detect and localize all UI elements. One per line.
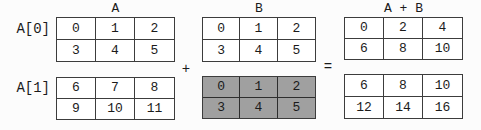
matrix-cell: 8 <box>384 75 423 97</box>
column-header-a: A <box>56 1 175 16</box>
matrix-cell: 8 <box>384 39 423 60</box>
matrix-cell: 3 <box>203 40 240 62</box>
matrix-cell: 0 <box>203 77 240 98</box>
column-header-b: B <box>202 1 316 16</box>
matrix-a1: 67891011 <box>56 77 175 120</box>
matrix-cell: 1 <box>96 18 135 40</box>
column-header-a-plus-b: A + B <box>344 1 463 16</box>
matrix-cell: 1 <box>240 77 277 98</box>
matrix-cell: 6 <box>345 39 384 60</box>
matrix-cell: 1 <box>240 18 277 40</box>
row-label-a0: A[0] <box>2 22 50 37</box>
matrix-cell: 4 <box>240 98 277 119</box>
matrix-a0: 012345 <box>56 17 175 62</box>
matrix-b-top: 012345 <box>202 17 316 62</box>
matrix-b-bottom: 012345 <box>202 76 316 119</box>
matrix-cell: 4 <box>96 40 135 62</box>
matrix-cell: 14 <box>384 97 423 119</box>
matrix-cell: 2 <box>278 18 315 40</box>
matrix-cell: 5 <box>278 98 315 119</box>
matrix-cell: 3 <box>203 98 240 119</box>
broadcast-addition-figure: A B A + B A[0] A[1] 012345 012345 024681… <box>0 0 481 130</box>
matrix-cell: 6 <box>57 78 96 99</box>
matrix-cell: 10 <box>423 75 462 97</box>
matrix-cell: 4 <box>423 18 462 39</box>
matrix-cell: 11 <box>135 99 174 120</box>
matrix-cell: 5 <box>135 40 174 62</box>
matrix-cell: 6 <box>345 75 384 97</box>
matrix-sum-bottom: 6810121416 <box>344 74 463 119</box>
matrix-cell: 8 <box>135 78 174 99</box>
plus-operator: + <box>176 59 196 79</box>
matrix-cell: 10 <box>423 39 462 60</box>
matrix-cell: 3 <box>57 40 96 62</box>
equals-operator: = <box>318 57 338 77</box>
row-label-a1: A[1] <box>2 81 50 96</box>
matrix-cell: 7 <box>96 78 135 99</box>
matrix-cell: 16 <box>423 97 462 119</box>
matrix-cell: 2 <box>384 18 423 39</box>
matrix-cell: 9 <box>57 99 96 120</box>
matrix-cell: 0 <box>345 18 384 39</box>
matrix-cell: 10 <box>96 99 135 120</box>
matrix-cell: 0 <box>57 18 96 40</box>
matrix-cell: 4 <box>240 40 277 62</box>
matrix-cell: 2 <box>135 18 174 40</box>
matrix-cell: 0 <box>203 18 240 40</box>
matrix-cell: 5 <box>278 40 315 62</box>
matrix-cell: 2 <box>278 77 315 98</box>
matrix-sum-top: 0246810 <box>344 17 463 60</box>
matrix-cell: 12 <box>345 97 384 119</box>
